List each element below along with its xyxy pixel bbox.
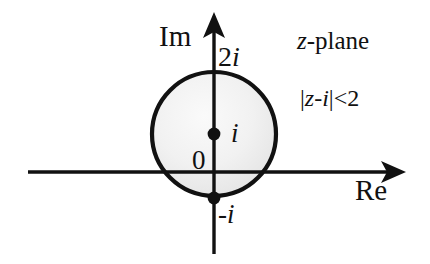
inequality-expression: z-i (305, 85, 329, 111)
inequality-relation: < (334, 85, 348, 111)
minus-i-unit: i (227, 199, 235, 229)
center-point-label: i (231, 120, 239, 147)
tick-2i-coefficient: 2 (218, 41, 232, 72)
plane-label-variable: z (297, 27, 307, 54)
plane-label-suffix: -plane (307, 27, 369, 54)
tick-2i-unit: i (232, 41, 240, 72)
region-inequality-label: |z-i|<2 (300, 86, 359, 110)
center-point-dot (208, 128, 221, 141)
imaginary-axis-label: Im (159, 22, 191, 51)
complex-plane-figure: Im Re 2i 0 i -i z-plane |z-i|<2 (0, 0, 430, 264)
plane-label: z-plane (297, 28, 369, 53)
tick-label-2i: 2i (218, 43, 240, 71)
minus-sign: - (218, 199, 227, 229)
origin-label: 0 (192, 147, 206, 174)
real-axis-label: Re (355, 176, 387, 205)
bottom-point-label: -i (218, 201, 235, 228)
inequality-bound: 2 (347, 85, 359, 111)
